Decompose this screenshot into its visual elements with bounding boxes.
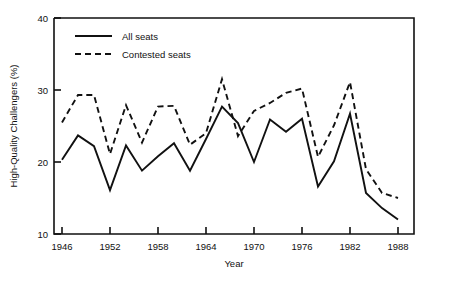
legend-label-contested-seats: Contested seats [122,49,191,60]
chart-figure: 10203040 1946195219581964197019761982198… [0,0,450,281]
x-tick-label: 1946 [51,241,72,252]
y-tick-label: 10 [37,229,48,240]
y-tick-label: 30 [37,85,48,96]
x-axis-title: Year [224,258,243,269]
x-tick-label: 1988 [387,241,408,252]
x-tick-label: 1976 [291,241,312,252]
line-chart: 10203040 1946195219581964197019761982198… [0,0,450,281]
x-tick-label: 1964 [195,241,216,252]
chart-background [0,0,450,281]
x-tick-label: 1970 [243,241,264,252]
y-tick-label: 20 [37,157,48,168]
x-tick-label: 1958 [147,241,168,252]
legend-label-all-seats: All seats [122,31,158,42]
y-tick-label: 40 [37,13,48,24]
x-tick-label: 1952 [99,241,120,252]
x-tick-label: 1982 [339,241,360,252]
y-axis-title: High-Quality Challengers (%) [8,64,19,187]
